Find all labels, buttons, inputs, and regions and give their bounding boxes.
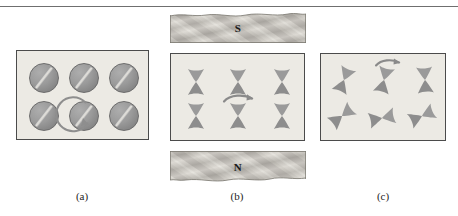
top-divider-rule xyxy=(0,6,458,7)
south-pole-piece: S xyxy=(170,12,306,43)
dipole-4 xyxy=(185,102,207,130)
dipole-5 xyxy=(366,104,398,131)
dipole-3 xyxy=(271,68,293,96)
dipole-5 xyxy=(227,102,249,130)
aligned-dipoles-panel xyxy=(170,53,305,141)
figure-root: S xyxy=(0,0,458,216)
dipole-1 xyxy=(185,68,207,96)
disc-3 xyxy=(109,63,139,93)
north-pole-label: N xyxy=(170,161,306,173)
disc-slot-icon xyxy=(75,67,93,89)
dipole-3 xyxy=(413,65,437,94)
disc-slot-icon xyxy=(115,67,133,89)
dipole-2 xyxy=(370,64,398,96)
caption-c: (c) xyxy=(343,190,423,202)
north-pole-piece: N xyxy=(170,151,306,182)
rotation-arrow-b-icon xyxy=(221,92,255,104)
disc-slot-icon xyxy=(35,67,53,89)
disc-slot-icon xyxy=(35,105,53,127)
disc-slot-icon xyxy=(115,105,133,127)
dipole-1 xyxy=(329,63,360,97)
rotation-arrow-a-icon xyxy=(52,93,96,137)
south-pole-label: S xyxy=(170,22,306,34)
caption-a: (a) xyxy=(42,190,122,202)
disc-6 xyxy=(109,101,139,131)
disc-2 xyxy=(69,63,99,93)
dipole-6 xyxy=(271,102,293,130)
dipole-4 xyxy=(324,99,360,134)
dipole-6 xyxy=(405,100,440,131)
disc-1 xyxy=(29,63,59,93)
rotation-arrow-c-icon xyxy=(374,57,402,68)
caption-b: (b) xyxy=(197,190,277,202)
random-dipoles-panel xyxy=(320,53,446,141)
